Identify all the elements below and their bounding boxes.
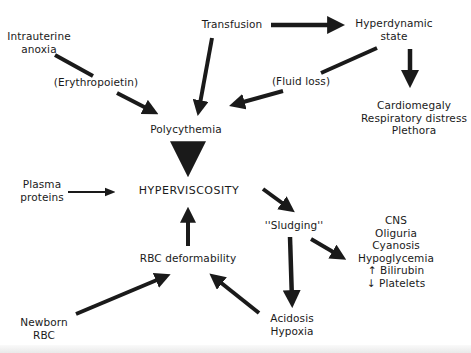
edge-sludging-to-acidosis xyxy=(290,237,292,300)
page-edge-divider xyxy=(0,345,471,353)
node-label-line: ↓ Platelets xyxy=(358,277,434,290)
node-label-line: RBC xyxy=(20,329,67,342)
node-label-line: Cyanosis xyxy=(358,239,434,252)
node-label-line: Plethora xyxy=(361,124,467,137)
node-label-line: Hyperdynamic xyxy=(355,17,432,30)
node-label-line: CNS xyxy=(358,214,434,227)
node-label-line: Hypoxia xyxy=(270,325,313,338)
edge-label: (Fluid loss) xyxy=(272,75,330,88)
edge-transfusion-to-polycythemia xyxy=(199,38,212,109)
edge-hyperdynamic-to-fluidloss xyxy=(321,48,377,73)
edge-fluidloss-to-polycythemia xyxy=(236,91,283,104)
node-sludging-effects: CNS Oliguria Cyanosis Hypoglycemia ↑ Bil… xyxy=(358,214,434,289)
node-hyperdynamic-effects: Cardiomegaly Respiratory distress Pletho… xyxy=(361,99,467,137)
node-label-line: Intrauterine xyxy=(7,30,70,43)
node-hyperviscosity: HYPERVISCOSITY xyxy=(139,185,239,198)
edge-label: (Erythropoietin) xyxy=(54,76,138,89)
node-acidosis-hypoxia: Acidosis Hypoxia xyxy=(270,312,313,337)
node-label-line: ''Sludging'' xyxy=(265,219,324,232)
node-label-line: state xyxy=(355,30,432,43)
label-fluid-loss: (Fluid loss) xyxy=(272,75,330,88)
node-label-line: Cardiomegaly xyxy=(361,99,467,112)
node-label-line: Transfusion xyxy=(202,18,263,31)
hyperviscosity-flow-diagram: Intrauterine anoxia Transfusion Hyperdyn… xyxy=(0,0,471,353)
node-label-line: HYPERVISCOSITY xyxy=(139,185,239,198)
node-intrauterine-anoxia: Intrauterine anoxia xyxy=(7,30,70,55)
edge-hyperviscosity-to-sludging xyxy=(263,189,289,208)
node-label-line: proteins xyxy=(20,191,64,204)
node-rbc-deformability: RBC deformability xyxy=(140,252,236,265)
node-label-line: ↑ Bilirubin xyxy=(358,264,434,277)
node-sludging: ''Sludging'' xyxy=(265,219,324,232)
node-label-line: Oliguria xyxy=(358,227,434,240)
edge-newbornrbc-to-rbcdeform xyxy=(76,277,164,314)
node-label-line: Plasma xyxy=(20,178,64,191)
node-label-line: Newborn xyxy=(20,316,67,329)
edge-erythropoietin-to-polycythemia xyxy=(117,93,152,111)
edge-anoxia-to-erythropoietin xyxy=(55,55,93,76)
label-erythropoietin: (Erythropoietin) xyxy=(54,76,138,89)
node-label-line: Polycythemia xyxy=(150,123,222,136)
edge-acidosis-to-rbcdeform xyxy=(215,278,259,313)
node-label-line: Respiratory distress xyxy=(361,112,467,125)
node-label-line: Hypoglycemia xyxy=(358,252,434,265)
node-transfusion: Transfusion xyxy=(202,18,263,31)
edge-sludging-to-cns xyxy=(311,239,340,256)
node-label-line: RBC deformability xyxy=(140,252,236,265)
node-polycythemia: Polycythemia xyxy=(150,123,222,136)
node-hyperdynamic-state: Hyperdynamic state xyxy=(355,17,432,42)
node-newborn-rbc: Newborn RBC xyxy=(20,316,67,341)
node-label-line: Acidosis xyxy=(270,312,313,325)
node-plasma-proteins: Plasma proteins xyxy=(20,178,64,203)
node-label-line: anoxia xyxy=(7,43,70,56)
